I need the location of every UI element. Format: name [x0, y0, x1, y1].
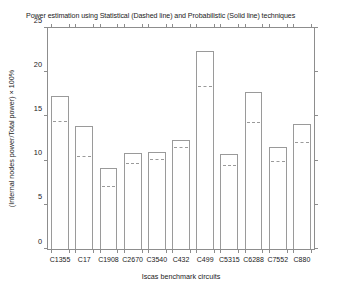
y-tick-label: 20 — [34, 59, 42, 68]
x-tick-top-C17-0 — [75, 24, 76, 28]
x-tick-label-C1355: C1355 — [50, 256, 71, 263]
x-tick-label-C432: C432 — [173, 256, 190, 263]
x-tick-C2670-0 — [124, 249, 125, 253]
y-tick-15 — [44, 115, 48, 116]
x-tick-top-C5315-1 — [238, 24, 239, 28]
bar-C1908 — [100, 168, 118, 249]
x-tick-top-C1908-1 — [117, 24, 118, 28]
x-tick-label-C2670: C2670 — [122, 256, 143, 263]
bar-C3540 — [148, 152, 166, 249]
bar-C7552 — [269, 147, 287, 249]
bar-C432 — [172, 140, 190, 249]
dashed-marker-C499 — [198, 86, 212, 87]
y-tick-right-25 — [314, 27, 318, 28]
x-tick-label-C5315: C5315 — [219, 256, 240, 263]
x-tick-C7552-0 — [269, 249, 270, 253]
y-tick-right-5 — [314, 204, 318, 205]
x-tick-top-C1355-0 — [51, 24, 52, 28]
bar-C17 — [75, 126, 93, 249]
dashed-marker-C1355 — [53, 121, 67, 122]
y-tick-right-15 — [314, 115, 318, 116]
plot-inner — [48, 28, 314, 249]
x-tick-C499-0 — [196, 249, 197, 253]
chart-title: Power estimation using Statistical (Dash… — [26, 12, 338, 21]
x-tick-top-C499-0 — [196, 24, 197, 28]
x-tick-C6288-0 — [245, 249, 246, 253]
x-tick-top-C17-1 — [93, 24, 94, 28]
x-tick-C3540-1 — [166, 249, 167, 253]
x-tick-top-C7552-1 — [287, 24, 288, 28]
y-tick-10 — [44, 160, 48, 161]
figure-canvas: Power estimation using Statistical (Dash… — [0, 0, 344, 303]
y-tick-label: 25 — [34, 15, 42, 24]
x-tick-top-C1355-1 — [69, 24, 70, 28]
x-tick-C1908-0 — [100, 249, 101, 253]
x-tick-top-C2670-0 — [124, 24, 125, 28]
x-tick-top-C3540-0 — [148, 24, 149, 28]
dashed-marker-C1908 — [102, 186, 116, 187]
y-tick-25 — [44, 27, 48, 28]
x-tick-C1908-1 — [117, 249, 118, 253]
y-tick-5 — [44, 204, 48, 205]
x-tick-label-C499: C499 — [197, 256, 214, 263]
x-tick-C432-0 — [172, 249, 173, 253]
x-tick-C6288-1 — [262, 249, 263, 253]
dashed-marker-C2670 — [126, 163, 140, 164]
dashed-marker-C5315 — [223, 165, 237, 166]
x-tick-label-C7552: C7552 — [267, 256, 288, 263]
dashed-marker-C880 — [295, 142, 309, 143]
dashed-marker-C432 — [174, 147, 188, 148]
x-tick-top-C3540-1 — [166, 24, 167, 28]
y-axis-title: (Internal nodes power/Total power) × 100… — [6, 27, 18, 250]
x-tick-top-C880-0 — [293, 24, 294, 28]
x-tick-label-C6288: C6288 — [243, 256, 264, 263]
plot-area: 0510152025C1355C17C1908C2670C3540C432C49… — [47, 27, 315, 250]
x-tick-top-C1908-0 — [100, 24, 101, 28]
x-tick-C5315-0 — [220, 249, 221, 253]
x-tick-C7552-1 — [287, 249, 288, 253]
y-tick-label: 10 — [34, 148, 42, 157]
x-tick-C17-1 — [93, 249, 94, 253]
x-tick-C499-1 — [214, 249, 215, 253]
y-tick-right-20 — [314, 71, 318, 72]
x-tick-C17-0 — [75, 249, 76, 253]
bar-C2670 — [124, 153, 142, 249]
x-tick-top-C499-1 — [214, 24, 215, 28]
y-axis-title-text: (Internal nodes power/Total power) × 100… — [8, 70, 17, 207]
y-tick-label: 0 — [38, 236, 42, 245]
x-tick-label-C880: C880 — [294, 256, 311, 263]
x-tick-top-C7552-0 — [269, 24, 270, 28]
y-tick-0 — [44, 248, 48, 249]
x-tick-C2670-1 — [142, 249, 143, 253]
x-tick-C1355-1 — [69, 249, 70, 253]
x-tick-C880-1 — [311, 249, 312, 253]
y-tick-right-10 — [314, 160, 318, 161]
x-tick-label-C1908: C1908 — [98, 256, 119, 263]
x-tick-top-C880-1 — [311, 24, 312, 28]
bar-C5315 — [220, 154, 238, 249]
bar-C499 — [196, 51, 214, 249]
bar-C6288 — [245, 92, 263, 249]
dashed-marker-C17 — [77, 156, 91, 157]
bar-C1355 — [51, 96, 69, 249]
y-tick-label: 15 — [34, 103, 42, 112]
dashed-marker-C3540 — [150, 159, 164, 160]
x-tick-C1355-0 — [51, 249, 52, 253]
y-tick-label: 5 — [38, 192, 42, 201]
x-tick-top-C6288-0 — [245, 24, 246, 28]
x-tick-C3540-0 — [148, 249, 149, 253]
y-tick-20 — [44, 71, 48, 72]
x-tick-top-C432-0 — [172, 24, 173, 28]
x-tick-top-C5315-0 — [220, 24, 221, 28]
x-axis-title: Iscas benchmark circuits — [47, 272, 315, 281]
x-tick-C5315-1 — [238, 249, 239, 253]
bar-C880 — [293, 124, 311, 249]
x-tick-top-C2670-1 — [142, 24, 143, 28]
x-tick-label-C17: C17 — [78, 256, 91, 263]
x-tick-top-C432-1 — [190, 24, 191, 28]
x-tick-top-C6288-1 — [262, 24, 263, 28]
x-tick-C880-0 — [293, 249, 294, 253]
x-tick-C432-1 — [190, 249, 191, 253]
x-tick-label-C3540: C3540 — [146, 256, 167, 263]
dashed-marker-C7552 — [271, 161, 285, 162]
